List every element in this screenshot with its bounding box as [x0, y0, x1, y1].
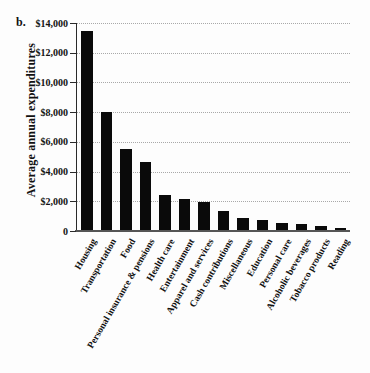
- x-axis-line: [75, 230, 350, 232]
- y-tick-label: 0: [28, 226, 68, 237]
- bar-alcoholic-beverages: [296, 224, 308, 230]
- y-tick-label: $4,000: [28, 166, 68, 177]
- gridline: [77, 172, 350, 173]
- y-axis-tick: [70, 201, 76, 202]
- figure: b. Average annual expenditures 0$2,000$4…: [0, 0, 370, 373]
- y-tick-label: $2,000: [28, 196, 68, 207]
- y-axis-tick: [70, 231, 76, 232]
- y-axis-tick: [70, 53, 76, 54]
- y-tick-label: $10,000: [28, 77, 68, 88]
- bar-personal-insurance-pensions: [140, 162, 152, 230]
- bar-education: [257, 220, 269, 230]
- bar-apparel-and-services: [198, 202, 210, 230]
- bar-personal-care: [276, 223, 288, 230]
- y-axis-tick: [70, 112, 76, 113]
- gridline: [77, 82, 350, 83]
- y-axis-tick: [70, 172, 76, 173]
- y-axis-tick: [70, 82, 76, 83]
- y-tick-label: $12,000: [28, 47, 68, 58]
- y-tick-label: $14,000: [28, 18, 68, 29]
- gridline: [77, 112, 350, 113]
- bar-cash-contributions: [218, 211, 230, 230]
- bar-miscellaneous: [237, 218, 249, 230]
- bar-entertainment: [179, 199, 191, 230]
- bar-transportation: [101, 112, 113, 230]
- plot-area: 0$2,000$4,000$6,000$8,000$10,000$12,000$…: [76, 23, 350, 231]
- y-tick-label: $8,000: [28, 107, 68, 118]
- figure-part-label: b.: [16, 15, 26, 30]
- bar-housing: [81, 31, 93, 230]
- gridline: [77, 142, 350, 143]
- bar-health-care: [159, 195, 171, 230]
- bar-reading: [335, 228, 347, 230]
- y-axis-tick: [70, 142, 76, 143]
- bar-tobacco-products: [315, 226, 327, 230]
- x-category-label: Food: [118, 237, 137, 260]
- gridline: [77, 201, 350, 202]
- y-tick-label: $6,000: [28, 136, 68, 147]
- y-axis-line: [76, 23, 77, 231]
- gridline: [77, 53, 350, 54]
- gridline: [77, 23, 350, 24]
- y-axis-tick: [70, 23, 76, 24]
- bar-food: [120, 149, 132, 230]
